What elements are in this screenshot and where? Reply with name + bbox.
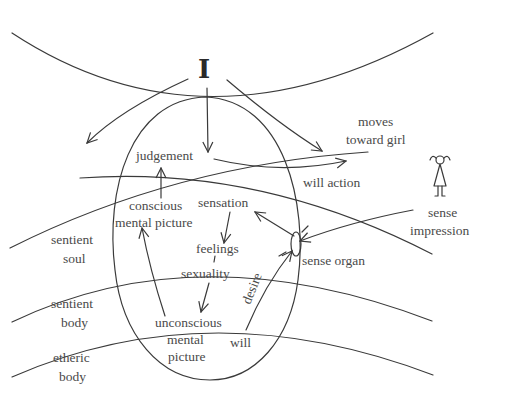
arrow-sexuality-to-unconscious <box>201 283 209 312</box>
judgement-label: judgement <box>135 148 193 163</box>
link-feelings-sexuality <box>214 256 215 262</box>
arrow-sense-organ-to-sensation <box>255 212 294 236</box>
sense-organ-shape <box>291 232 301 256</box>
sexuality-label: sexuality <box>181 266 230 281</box>
sense-organ-label: sense organ <box>302 253 365 268</box>
sentient-body-label-2: body <box>61 315 88 330</box>
etheric-body-label-1: etheric <box>53 350 90 365</box>
arrow-judgement-to-will-action <box>214 159 346 168</box>
sense-organ-ray-1 <box>302 226 308 232</box>
unconscious-label-1: unconscious <box>155 315 222 330</box>
will-action-label: will action <box>303 175 361 190</box>
feelings-label: feelings <box>196 241 239 256</box>
sentient-soul-label-2: soul <box>63 251 86 266</box>
sensation-label: sensation <box>198 195 248 210</box>
will-label: will <box>230 335 251 350</box>
arrow-unconscious-to-conscious <box>142 228 165 316</box>
sentient-body-label-1: sentient <box>51 296 93 311</box>
ego-label: I <box>198 54 210 84</box>
conscious-label-1: conscious <box>129 198 182 213</box>
arrow-ego-to-left <box>87 79 188 143</box>
desire-label: desire <box>239 271 265 307</box>
stick-figure-girl-icon <box>430 156 450 196</box>
unconscious-label-2: mental <box>167 332 204 347</box>
sense-impression-label-2: impression <box>410 223 469 238</box>
moves-toward-girl-label-2: toward girl <box>346 132 406 147</box>
ego-sphere-boundary <box>12 33 433 97</box>
sense-impression-label-1: sense <box>428 205 457 220</box>
human-ellipse <box>113 97 300 380</box>
sentient-soul-label-1: sentient <box>51 232 93 247</box>
unconscious-label-3: picture <box>168 349 205 364</box>
moves-toward-girl-label-1: moves <box>358 114 393 129</box>
sense-organ-ray-2 <box>279 252 286 256</box>
steiner-ego-diagram: I judgement moves toward girl will actio… <box>0 0 505 405</box>
etheric-body-label-2: body <box>59 369 86 384</box>
conscious-label-2: mental picture <box>115 215 193 230</box>
arrow-sensation-to-feelings <box>224 212 230 243</box>
